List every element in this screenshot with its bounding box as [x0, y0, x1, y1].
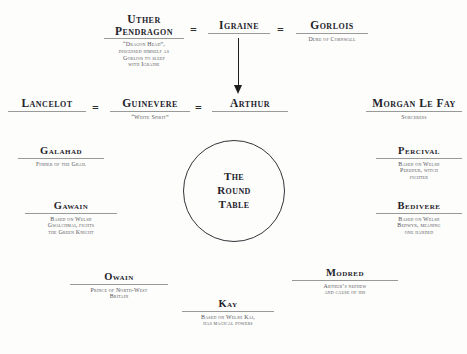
- node-rule-morgan-le-fay: [366, 111, 462, 112]
- arthurian-family-tree-diagram: Uther Pendragon “Dragon Head”, disguised…: [0, 0, 467, 354]
- node-name-galahad: Galahad: [18, 146, 104, 157]
- node-uther-pendragon: Uther Pendragon “Dragon Head”, disguised…: [104, 14, 184, 68]
- node-kay: Owain Prince of North-West Britain: [70, 272, 168, 300]
- descent-arrow-line: [238, 38, 239, 86]
- node-desc-kay: Prince of North-West Britain: [70, 287, 168, 300]
- marriage-symbol-uther-igraine: =: [190, 24, 197, 36]
- node-name-percival: Percival: [376, 146, 462, 157]
- node-name-bedivere: Bedivere: [376, 201, 462, 212]
- round-table-label: The Round Table: [217, 170, 251, 211]
- node-lancelot: Lancelot: [8, 98, 86, 112]
- node-rule-uther-pendragon: [104, 38, 184, 39]
- node-desc-modred: Based on Welsh Kai, has magical powers: [182, 314, 274, 327]
- node-percival: Percival Based on Welsh Peredur, witch f…: [376, 146, 462, 181]
- round-table-circle: The Round Table: [183, 140, 285, 242]
- node-rule-gawain: [25, 213, 117, 214]
- node-modred: Kay Based on Welsh Kai, has magical powe…: [182, 299, 274, 327]
- node-gorlois: Gorlois Duke of Cornwall: [296, 20, 368, 42]
- node-igraine: Igraine: [208, 20, 270, 34]
- node-name-uther-pendragon: Uther Pendragon: [104, 14, 184, 37]
- node-rule-bedivere: [376, 213, 462, 214]
- descent-arrow-head: [234, 85, 242, 94]
- node-desc-galahad: Finder of the Grail: [18, 161, 104, 168]
- node-name-guinevere: Guinevere: [110, 98, 190, 110]
- node-guinevere: Guinevere “White Spirit”: [110, 98, 190, 120]
- node-desc-gorlois: Duke of Cornwall: [296, 36, 368, 43]
- node-owain: Modred Arthur’s nephew and cause of his: [292, 268, 398, 296]
- node-desc-bedivere: Based on Welsh Bedwyr, meaning one hande…: [376, 216, 462, 236]
- node-rule-gorlois: [296, 33, 368, 34]
- node-rule-galahad: [18, 158, 104, 159]
- node-desc-morgan-le-fay: Sorceress: [366, 114, 462, 121]
- node-name-owain: Modred: [292, 268, 398, 279]
- node-name-lancelot: Lancelot: [8, 98, 86, 110]
- marriage-symbol-lancelot-guinevere: =: [92, 102, 99, 114]
- marriage-symbol-igraine-gorlois: =: [277, 24, 284, 36]
- node-name-gorlois: Gorlois: [296, 20, 368, 32]
- node-rule-modred: [182, 311, 274, 312]
- node-name-igraine: Igraine: [208, 20, 270, 32]
- node-arthur: Arthur: [212, 98, 288, 112]
- node-desc-owain: Arthur’s nephew and cause of his: [292, 283, 398, 296]
- node-name-kay: Owain: [70, 272, 168, 283]
- node-rule-percival: [376, 158, 462, 159]
- node-desc-guinevere: “White Spirit”: [110, 114, 190, 121]
- node-morgan-le-fay: Morgan Le Fay Sorceress: [366, 98, 462, 120]
- node-rule-kay: [70, 284, 168, 285]
- node-rule-owain: [292, 280, 398, 281]
- node-gawain: Gawain Based on Welsh Gwalchmai, fights …: [25, 201, 117, 236]
- node-rule-igraine: [208, 33, 270, 34]
- node-desc-uther-pendragon: “Dragon Head”, disguised himself as Gorl…: [104, 41, 184, 67]
- node-rule-lancelot: [8, 111, 86, 112]
- node-name-modred: Kay: [182, 299, 274, 310]
- node-name-gawain: Gawain: [25, 201, 117, 212]
- node-desc-percival: Based on Welsh Peredur, witch fighter: [376, 161, 462, 181]
- node-desc-gawain: Based on Welsh Gwalchmai, fights the Gre…: [25, 216, 117, 236]
- node-name-arthur: Arthur: [212, 98, 288, 110]
- node-bedivere: Bedivere Based on Welsh Bedwyr, meaning …: [376, 201, 462, 236]
- node-rule-arthur: [212, 111, 288, 112]
- node-name-morgan-le-fay: Morgan Le Fay: [366, 98, 462, 110]
- marriage-symbol-guinevere-arthur: =: [195, 102, 202, 114]
- node-rule-guinevere: [110, 111, 190, 112]
- node-galahad: Galahad Finder of the Grail: [18, 146, 104, 167]
